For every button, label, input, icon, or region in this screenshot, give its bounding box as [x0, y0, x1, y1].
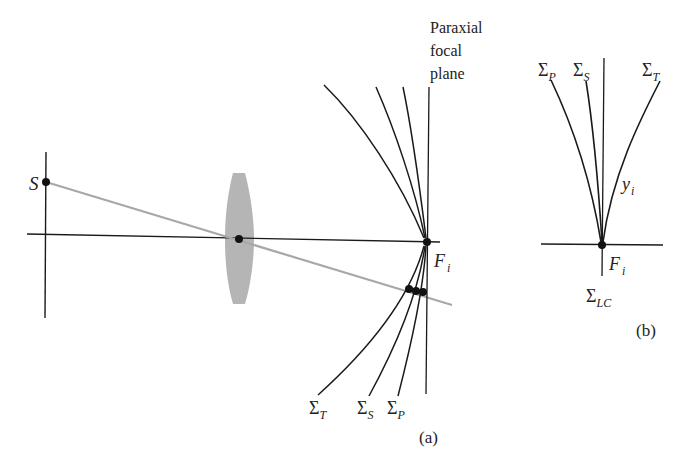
sagittal-image-point [412, 287, 420, 295]
height-label-b: yi [620, 174, 634, 198]
source-point [42, 178, 50, 186]
tangential-image-point [405, 285, 413, 293]
surface-t-upper-curve [324, 85, 424, 238]
surface-label-p-b: ΣP [538, 60, 556, 84]
focal-point-label-a: Fi [433, 251, 450, 275]
astigmatism-field-curvature-figure: S Paraxial focal plane Fi ΣT ΣS ΣP (a) Σ… [0, 0, 686, 468]
surface-p-curve-b [551, 80, 601, 242]
surface-s-curve-b [586, 81, 602, 242]
surface-label-s-b: ΣS [573, 60, 589, 84]
surface-label-t-a: ΣT [309, 398, 327, 422]
plane-label-line-1: Paraxial [430, 19, 483, 36]
petzval-image-point [419, 288, 427, 296]
lens-center-point [235, 235, 243, 243]
plane-label-line-3: plane [430, 65, 465, 83]
panel-b: ΣP ΣS ΣT yi Fi ΣLC (b) [538, 58, 663, 340]
surface-label-t-b: ΣT [642, 60, 660, 84]
focal-point-label-b: Fi [608, 254, 625, 278]
surface-label-p-a: ΣP [387, 398, 405, 422]
caption-a: (a) [419, 428, 438, 447]
paraxial-focus-point [423, 238, 431, 246]
surface-label-s-a: ΣS [357, 398, 373, 422]
source-label: S [29, 173, 39, 194]
surface-p-lower-curve [398, 246, 426, 396]
surface-label-lc-b: ΣLC [586, 286, 612, 310]
focal-point-b [598, 241, 606, 249]
plane-label-line-2: focal [430, 42, 463, 59]
caption-b: (b) [636, 321, 656, 340]
surface-s-upper-curve [376, 87, 425, 238]
surface-t-curve-b [603, 81, 660, 242]
panel-a: S Paraxial focal plane Fi ΣT ΣS ΣP (a) [27, 19, 483, 447]
figure-canvas: S Paraxial focal plane Fi ΣT ΣS ΣP (a) Σ… [0, 0, 686, 468]
